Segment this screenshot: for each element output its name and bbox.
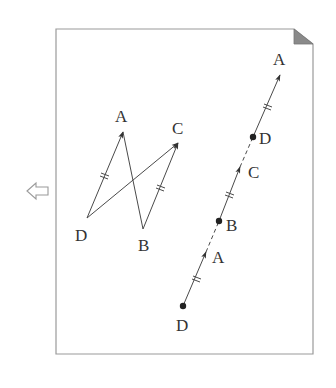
label-c-right: C: [248, 163, 259, 182]
diagram-canvas: A C D B A D: [0, 0, 336, 388]
point-dot-b: [216, 218, 222, 224]
label-d-bottom: D: [176, 316, 188, 335]
back-arrow-icon[interactable]: [27, 183, 48, 199]
label-a-top: A: [273, 50, 286, 69]
point-dot-d-mid: [250, 134, 256, 140]
page-fold-corner: [294, 29, 313, 44]
label-c: C: [172, 119, 183, 138]
point-dot-d-bottom: [180, 303, 186, 309]
label-d: D: [75, 226, 87, 245]
label-d-mid: D: [259, 129, 271, 148]
label-b: B: [138, 236, 149, 255]
label-a-low: A: [212, 248, 225, 267]
label-a: A: [115, 107, 128, 126]
label-b-right: B: [226, 216, 237, 235]
